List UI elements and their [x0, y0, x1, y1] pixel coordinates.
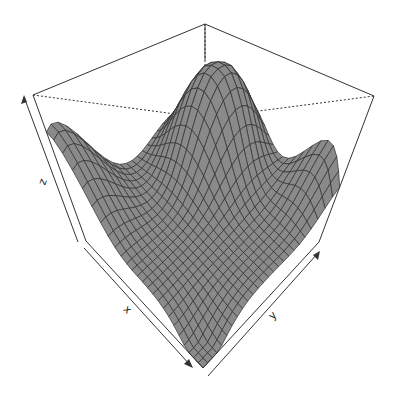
surface-plot: z x y	[0, 0, 396, 400]
z-axis-label: z	[36, 177, 50, 187]
surface-mesh	[46, 62, 339, 368]
y-axis-label: y	[266, 308, 280, 322]
x-axis-label: x	[121, 303, 135, 317]
y-axis-arrow-icon	[313, 251, 320, 260]
z-axis-line	[24, 97, 78, 242]
